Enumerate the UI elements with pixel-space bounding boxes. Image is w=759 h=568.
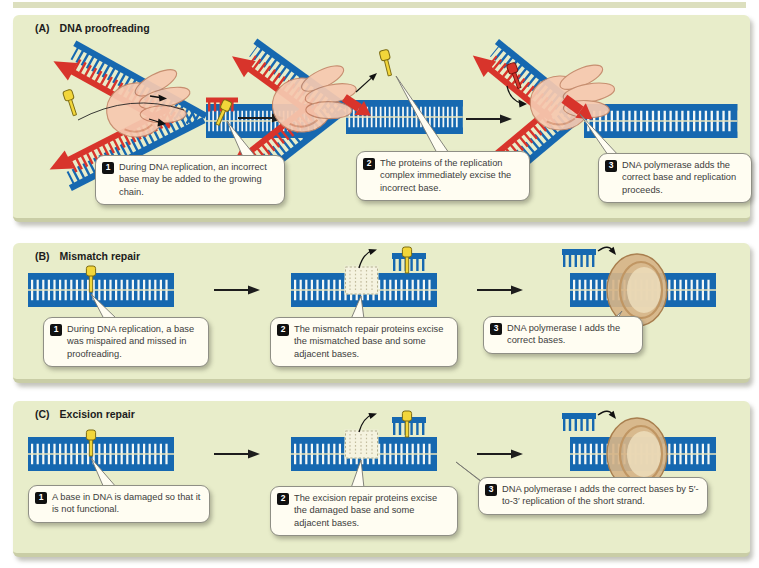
- step-number-badge: 2: [277, 493, 289, 505]
- step-number-badge: 2: [277, 324, 289, 336]
- callout-text: A base in DNA is damaged so that it is n…: [52, 492, 200, 514]
- panel-a-tag: (A): [35, 22, 50, 34]
- step-number-badge: 3: [605, 160, 617, 172]
- panel-c-tag: (C): [35, 408, 50, 420]
- step-number-badge: 1: [50, 324, 62, 336]
- callout-text: During DNA replication, an incorrect bas…: [119, 162, 267, 197]
- panel-c-title-text: Excision repair: [60, 408, 135, 420]
- callout-b-step3: 3 DNA polymerase I adds the correct base…: [483, 316, 643, 354]
- callout-b-step1: 1 During DNA replication, a base was mis…: [43, 317, 209, 367]
- panel-a-title-text: DNA proofreading: [60, 22, 150, 34]
- callout-text: DNA polymerase adds the correct base and…: [622, 160, 736, 195]
- callout-text: The excision repair proteins excise the …: [294, 493, 437, 528]
- panel-b-title: (B)Mismatch repair: [35, 250, 140, 262]
- callout-a-step1: 1 During DNA replication, an incorrect b…: [95, 155, 285, 205]
- panel-b-tag: (B): [35, 250, 50, 262]
- callout-text: The proteins of the replication complex …: [380, 158, 511, 193]
- callout-c-step3: 3 DNA polymerase I adds the correct base…: [478, 477, 708, 515]
- step-number-badge: 3: [490, 323, 502, 335]
- step-number-badge: 1: [35, 492, 47, 504]
- panel-b-title-text: Mismatch repair: [60, 250, 141, 262]
- callout-b-step2: 2 The mismatch repair proteins excise th…: [270, 317, 458, 367]
- step-number-badge: 1: [102, 162, 114, 174]
- step-number-badge: 2: [363, 158, 375, 170]
- panel-a-title: (A)DNA proofreading: [35, 22, 150, 34]
- top-edge-strip: [13, 2, 746, 8]
- callout-a-step2: 2 The proteins of the replication comple…: [356, 151, 530, 201]
- dna-repair-figure: (A)DNA proofreading (B)Mismatch repair (…: [0, 0, 759, 568]
- callout-text: The mismatch repair proteins excise the …: [294, 324, 443, 359]
- callout-text: During DNA replication, a base was mispa…: [67, 324, 194, 359]
- step-number-badge: 3: [485, 484, 497, 496]
- callout-c-step2: 2 The excision repair proteins excise th…: [270, 486, 458, 536]
- callout-a-step3: 3 DNA polymerase adds the correct base a…: [598, 153, 752, 203]
- callout-text: DNA polymerase I adds the correct bases …: [502, 484, 699, 506]
- callout-text: DNA polymerase I adds the correct bases.: [507, 323, 620, 345]
- panel-c-title: (C)Excision repair: [35, 408, 135, 420]
- callout-c-step1: 1 A base in DNA is damaged so that it is…: [28, 485, 210, 523]
